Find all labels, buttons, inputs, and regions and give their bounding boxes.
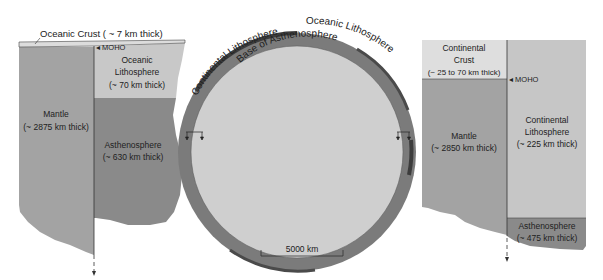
continental-mantle-thickness: (~ 2850 km thick) bbox=[431, 143, 497, 153]
oceanic-lithosphere-name-1: Oceanic bbox=[121, 55, 153, 65]
oceanic-moho-label: ◂ MOHO bbox=[96, 43, 126, 52]
continental-crust-name-1: Continental bbox=[442, 43, 485, 53]
continental-moho-label: ◂ MOHO bbox=[509, 75, 539, 84]
oceanic-mantle-block bbox=[19, 47, 94, 255]
continental-column: Continental Crust (~ 25 to 70 km thick) … bbox=[422, 40, 586, 262]
continental-asthenosphere-thickness: (~ 475 km thick) bbox=[517, 233, 578, 243]
continental-crust-name-2: Crust bbox=[454, 55, 475, 65]
arrow-down-icon bbox=[505, 257, 509, 262]
scale-bar-label: 5000 km bbox=[286, 244, 319, 254]
oceanic-mantle-thickness: (~ 2875 km thick) bbox=[23, 122, 89, 132]
oceanic-lithosphere-thickness: (~ 70 km thick) bbox=[109, 80, 165, 90]
continental-crust-thickness: (~ 25 to 70 km thick) bbox=[428, 68, 501, 77]
continental-asthenosphere-name: Asthenosphere bbox=[518, 221, 575, 231]
continental-mantle-name: Mantle bbox=[451, 131, 477, 141]
continental-lithosphere-name-2: Lithosphere bbox=[525, 127, 570, 137]
continental-lithosphere-thickness: (~ 225 km thick) bbox=[517, 139, 578, 149]
earth-cross-section: Continental Lithosphere Oceanic Lithosph… bbox=[178, 15, 416, 272]
oceanic-lithosphere-name-2: Lithosphere bbox=[115, 67, 160, 77]
oceanic-asthenosphere-name: Asthenosphere bbox=[104, 140, 161, 150]
oceanic-column: Oceanic Crust ( ~ 7 km thick) ◂ MOHO Oce… bbox=[19, 28, 185, 276]
oceanic-asthenosphere-thickness: (~ 630 km thick) bbox=[103, 152, 164, 162]
arrow-down-icon bbox=[92, 271, 96, 276]
earth-layers-diagram: Oceanic Crust ( ~ 7 km thick) ◂ MOHO Oce… bbox=[0, 0, 603, 280]
globe-core bbox=[191, 46, 403, 258]
right-lithosphere-arc bbox=[409, 140, 411, 175]
oceanic-crust-label: Oceanic Crust ( ~ 7 km thick) bbox=[40, 28, 163, 39]
continental-lithosphere-name-1: Continental bbox=[525, 115, 568, 125]
continental-mantle-block bbox=[422, 79, 507, 235]
oceanic-mantle-name: Mantle bbox=[43, 109, 69, 119]
